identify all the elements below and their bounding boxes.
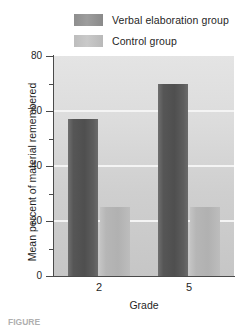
bar-control-grade-5 xyxy=(190,207,220,276)
figure-caption-text: FIGURE xyxy=(8,319,40,327)
legend-item-control-group: Control group xyxy=(74,31,252,50)
legend-label-verbal-elaboration-group: Verbal elaboration group xyxy=(112,14,229,26)
bar-verbal-elaboration-grade-5 xyxy=(158,84,188,277)
y-tick-major-40 xyxy=(46,166,54,167)
y-tick-minor-30 xyxy=(49,194,54,195)
bar-control-grade-2 xyxy=(100,207,130,276)
x-tick-label-grade-5: 5 xyxy=(169,281,209,293)
legend-swatch-icon-control-group xyxy=(74,35,103,47)
legend-item-verbal-elaboration-group: Verbal elaboration group xyxy=(74,10,252,29)
y-tick-minor-10 xyxy=(49,249,54,250)
y-tick-minor-50 xyxy=(49,139,54,140)
y-tick-major-80 xyxy=(46,56,54,57)
x-tick-label-grade-2: 2 xyxy=(79,281,119,293)
y-tick-major-20 xyxy=(46,221,54,222)
y-axis-title: Mean percent of material remembered xyxy=(26,62,38,282)
x-axis-title: Grade xyxy=(54,299,234,311)
chart-legend: Verbal elaboration group Control group xyxy=(74,10,252,52)
plot-area xyxy=(54,56,234,276)
gridline-60 xyxy=(54,110,234,112)
x-axis-line xyxy=(53,276,235,277)
y-tick-major-0 xyxy=(46,276,54,277)
bar-verbal-elaboration-grade-2 xyxy=(68,119,98,276)
figure-caption: FIGURE xyxy=(0,319,252,327)
legend-swatch-icon-verbal-elaboration-group xyxy=(74,14,103,26)
figure-bar-chart: Verbal elaboration group Control group 0… xyxy=(0,0,252,327)
y-tick-major-60 xyxy=(46,111,54,112)
y-tick-minor-70 xyxy=(49,84,54,85)
legend-label-control-group: Control group xyxy=(112,35,177,47)
y-tick-label-80: 80 xyxy=(2,50,42,61)
